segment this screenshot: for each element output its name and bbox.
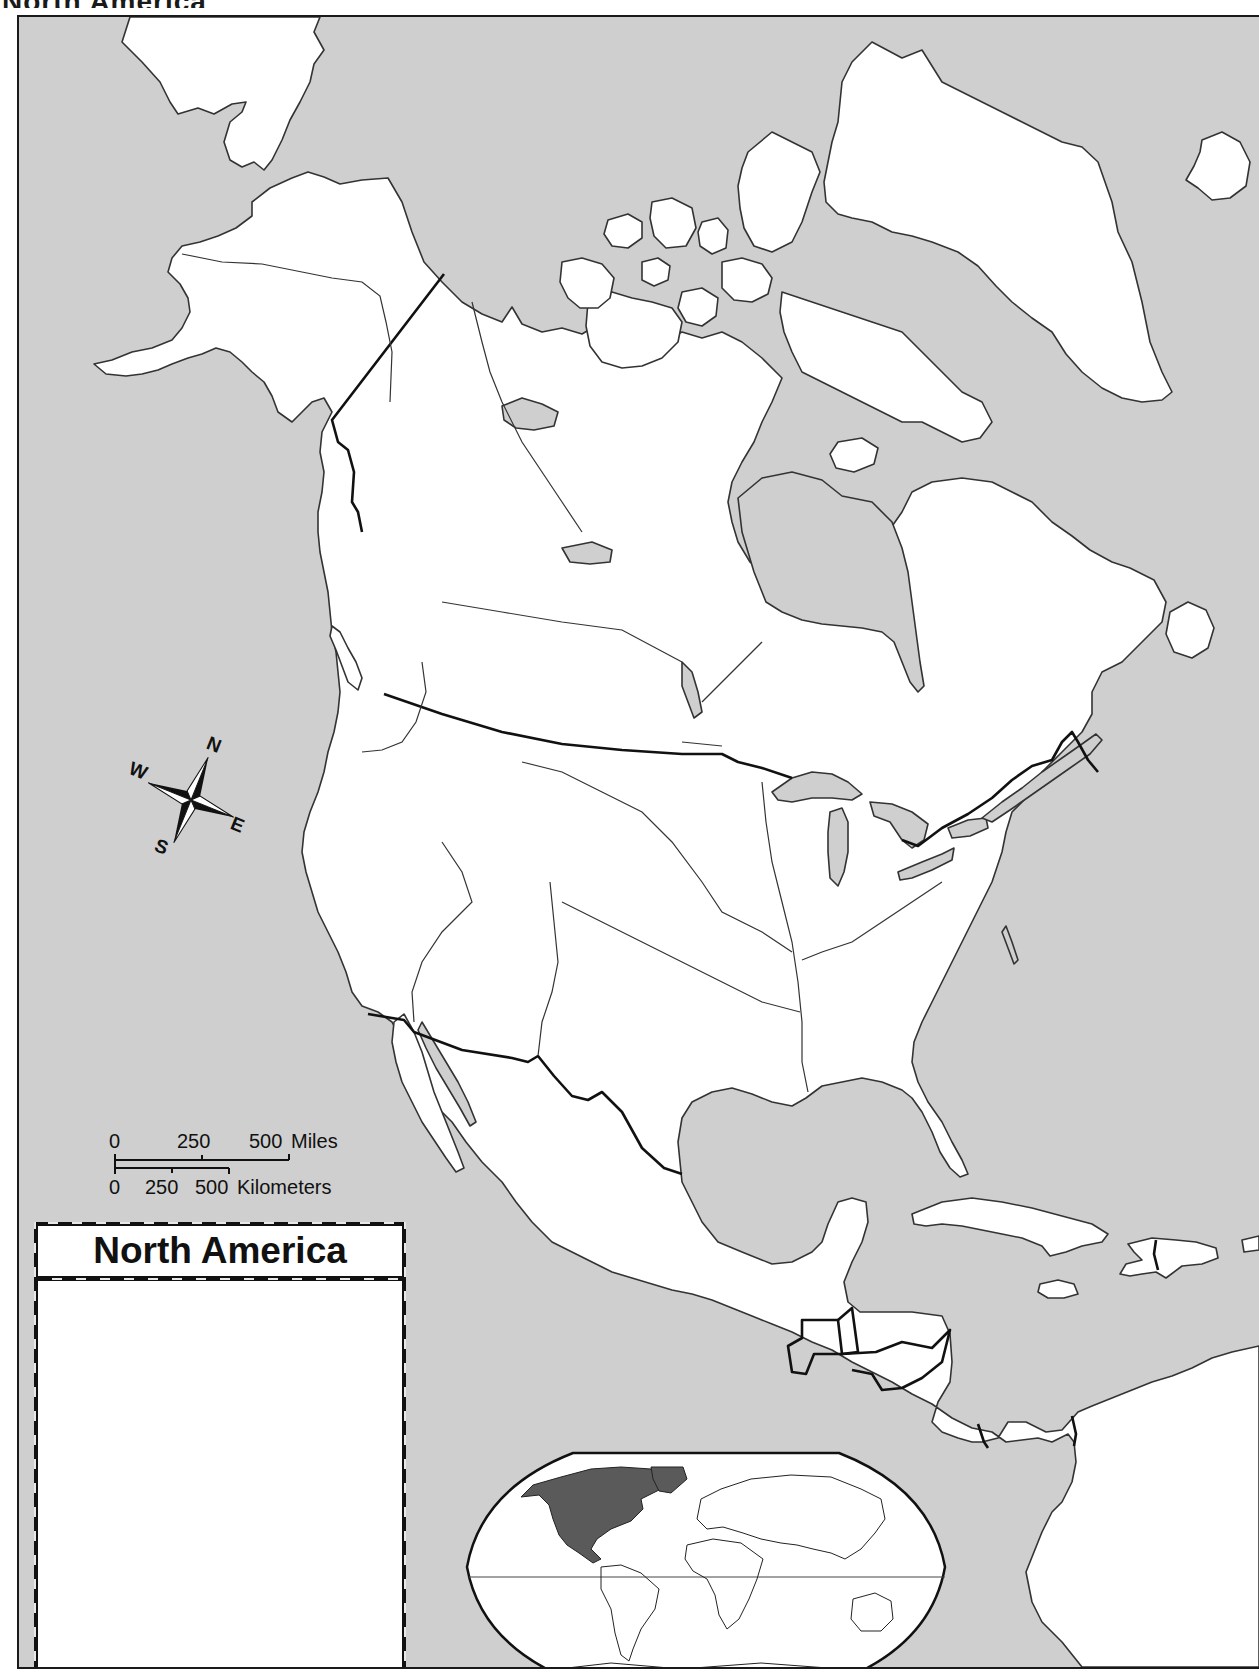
arctic-island-5 bbox=[678, 288, 718, 326]
scale-bar: 0 250 500 Miles 0 250 500 Kilometers bbox=[91, 1130, 391, 1210]
map-frame: N W E S 0 250 500 Miles 0 250 500 Kilome… bbox=[17, 15, 1259, 1669]
title-box-heading: North America bbox=[38, 1226, 402, 1281]
iceland bbox=[1186, 132, 1250, 200]
scale-km-tick-250: 250 bbox=[145, 1176, 178, 1199]
world-locator-inset bbox=[461, 1449, 951, 1669]
arctic-island-4 bbox=[722, 258, 772, 302]
page-title-cut: North America bbox=[2, 0, 207, 8]
chesapeake-bay bbox=[1002, 926, 1018, 964]
puerto-rico bbox=[1242, 1236, 1259, 1252]
title-box-body bbox=[38, 1281, 402, 1661]
hispaniola bbox=[1120, 1238, 1218, 1278]
southampton-island bbox=[830, 438, 878, 472]
scale-bar-lines bbox=[111, 1152, 311, 1176]
scale-km-unit: Kilometers bbox=[237, 1176, 331, 1199]
scale-km-tick-0: 0 bbox=[109, 1176, 120, 1199]
compass-rose: N W E S bbox=[119, 732, 269, 862]
ellesmere-island bbox=[738, 132, 820, 252]
newfoundland bbox=[1166, 602, 1214, 658]
compass-star-icon bbox=[119, 732, 269, 862]
siberia-landmass bbox=[122, 17, 324, 170]
scale-km-tick-500: 500 bbox=[195, 1176, 228, 1199]
banks-island bbox=[560, 258, 614, 308]
world-map-inset bbox=[461, 1449, 951, 1669]
scale-miles-tick-250: 250 bbox=[177, 1130, 210, 1153]
scale-miles-tick-500: 500 bbox=[249, 1130, 282, 1153]
arctic-island-3 bbox=[698, 218, 728, 254]
arctic-island-1 bbox=[604, 214, 642, 248]
arctic-island-6 bbox=[642, 258, 670, 286]
title-box: North America bbox=[34, 1222, 406, 1669]
cuba bbox=[912, 1198, 1108, 1256]
scale-miles-unit: Miles bbox=[291, 1130, 338, 1153]
scale-miles-tick-0: 0 bbox=[109, 1130, 120, 1153]
baffin-island bbox=[780, 292, 992, 442]
jamaica bbox=[1038, 1280, 1078, 1298]
arctic-island-2 bbox=[650, 198, 696, 248]
